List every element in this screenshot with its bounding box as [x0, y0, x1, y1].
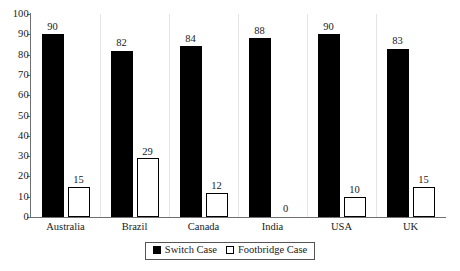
group-separator: [307, 14, 308, 217]
x-axis-category-label: USA: [331, 222, 352, 233]
bar-value-label: 90: [47, 22, 58, 33]
bar-australia-switch-case: 90: [42, 34, 64, 217]
filled-square-icon: [153, 246, 161, 254]
x-axis-category-label: UK: [403, 222, 418, 233]
bar-value-label: 15: [418, 175, 429, 186]
y-axis-label: 80: [18, 49, 29, 60]
bar-value-label: 83: [392, 36, 403, 47]
x-axis-category-label: India: [262, 222, 284, 233]
bar-canada-switch-case: 84: [180, 46, 202, 217]
y-axis-label: 60: [18, 90, 29, 101]
bar-value-label: 29: [142, 147, 153, 158]
bar-brazil-footbridge-case: 29: [137, 158, 159, 217]
y-axis-label: 30: [18, 151, 29, 162]
chart-legend: Switch Case Footbridge Case: [0, 242, 460, 260]
bar-india-switch-case: 88: [249, 38, 271, 217]
plot-area: 90158229841288090108315: [31, 14, 445, 217]
legend-entry-switch-case: Switch Case: [153, 245, 217, 256]
y-axis-label: 0: [24, 212, 29, 223]
y-axis-label: 70: [18, 70, 29, 81]
group-separator: [169, 14, 170, 217]
hollow-square-icon: [226, 246, 234, 254]
bar-value-label: 12: [211, 181, 222, 192]
bar-value-label: 82: [116, 38, 127, 49]
legend-entry-footbridge-case: Footbridge Case: [226, 245, 307, 256]
bar-uk-footbridge-case: 15: [413, 187, 435, 217]
legend-box: Switch Case Footbridge Case: [145, 242, 315, 260]
bar-usa-footbridge-case: 10: [344, 197, 366, 217]
y-axis-label: 50: [18, 110, 29, 121]
y-axis-label: 10: [18, 191, 29, 202]
bar-value-label: 88: [254, 26, 265, 37]
legend-label-switch-case: Switch Case: [165, 245, 217, 256]
bar-brazil-switch-case: 82: [111, 51, 133, 217]
y-axis-label: 100: [13, 9, 29, 20]
bar-usa-switch-case: 90: [318, 34, 340, 217]
bar-australia-footbridge-case: 15: [68, 187, 90, 217]
legend-label-footbridge-case: Footbridge Case: [238, 245, 307, 256]
bar-value-label: 0: [283, 204, 288, 215]
bar-chart-figure: 90158229841288090108315 Switch Case Foot…: [0, 0, 460, 271]
group-separator: [100, 14, 101, 217]
y-axis-label: 90: [18, 29, 29, 40]
bar-value-label: 15: [73, 175, 84, 186]
x-axis-category-label: Canada: [188, 222, 220, 233]
bar-canada-footbridge-case: 12: [206, 193, 228, 217]
x-axis-line: [31, 217, 446, 218]
x-axis-category-label: Australia: [46, 222, 85, 233]
bar-value-label: 10: [349, 185, 360, 196]
y-axis-label: 40: [18, 131, 29, 142]
bar-value-label: 84: [185, 34, 196, 45]
y-axis-label: 20: [18, 171, 29, 182]
x-axis-category-label: Brazil: [122, 222, 148, 233]
group-separator: [238, 14, 239, 217]
bar-value-label: 90: [323, 22, 334, 33]
bar-uk-switch-case: 83: [387, 49, 409, 217]
group-separator: [376, 14, 377, 217]
